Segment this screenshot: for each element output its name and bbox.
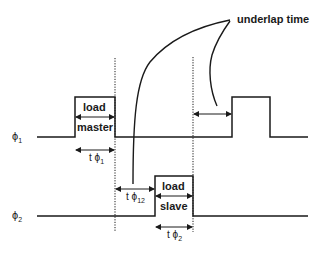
t-symbol: t [167,229,170,240]
t-phi2-label: t ϕ2 [167,230,182,244]
t-symbol: t [126,191,129,202]
phi1-label: ϕ1 [12,131,22,146]
master-load-label: load [83,102,106,113]
t-phi12-label: t ϕ12 [126,192,145,206]
leader-curve-2 [210,21,230,106]
sub: 12 [137,197,145,204]
master-label: master [77,122,113,133]
underlap-time-label: underlap time [237,14,309,25]
diagram-graphics [0,0,325,259]
phi1-sub: 1 [18,137,22,144]
phi2-sub: 2 [18,216,22,223]
t-phi1-label: t ϕ1 [89,153,104,167]
slave-label: slave [160,201,188,212]
sub: 2 [178,235,182,242]
sub: 1 [100,158,104,165]
phi2-label: ϕ2 [12,210,22,225]
timing-diagram: underlap time ϕ1 ϕ2 load master load sla… [0,0,325,259]
t-symbol: t [89,152,92,163]
slave-load-label: load [162,181,185,192]
